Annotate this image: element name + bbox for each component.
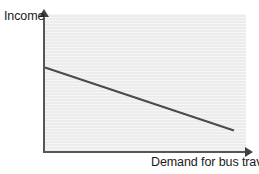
x-axis-label: Demand for bus travel	[151, 155, 259, 170]
demand-curve	[45, 67, 234, 130]
data-line-layer	[0, 0, 259, 174]
y-axis-label: Income	[4, 9, 44, 24]
chart-figure: Income Demand for bus travel	[0, 0, 259, 174]
